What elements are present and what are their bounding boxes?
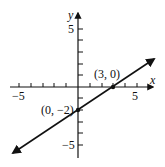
- x-axis-label: x: [149, 73, 156, 87]
- graph-line: [13, 59, 154, 153]
- point-x-intercept: [111, 85, 115, 89]
- point-y-intercept: [76, 108, 80, 112]
- point-label-x-intercept: (3, 0): [94, 67, 120, 81]
- y-axis-label: y: [67, 8, 74, 22]
- point-label-y-intercept: (0, −2): [41, 103, 74, 117]
- y-tick-label-5: 5: [68, 22, 74, 36]
- x-tick-label-5: 5: [132, 89, 138, 103]
- x-tick-label-neg5: −5: [12, 89, 25, 103]
- coordinate-graph: x y −5 5 5 −5 (3, 0) (0, −2): [0, 0, 165, 167]
- y-tick-label-neg5: −5: [62, 138, 75, 152]
